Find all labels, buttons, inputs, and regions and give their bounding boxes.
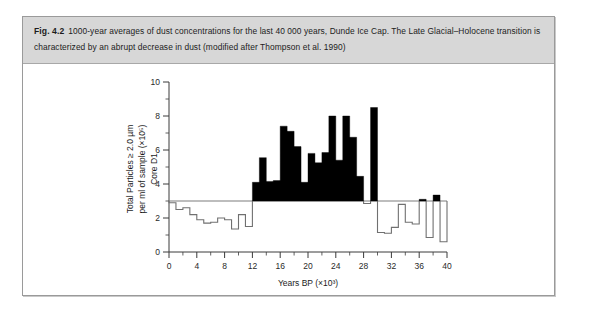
dust-concentration-chart: 0246810 0481216202428323640 Total Partic… <box>23 64 556 296</box>
x-tick-label: 32 <box>387 261 397 271</box>
y-tick-label: 8 <box>155 111 160 121</box>
open-step-outline <box>169 201 447 242</box>
x-tick-label: 40 <box>442 261 452 271</box>
x-tick-label: 4 <box>194 261 199 271</box>
figure-caption: Fig. 4.21000-year averages of dust conce… <box>34 24 544 55</box>
y-axis-title-line-1: Total Particles ≥ 2.0 µm <box>125 125 135 213</box>
x-tick-label: 8 <box>222 261 227 271</box>
chart-plot-area: 0246810 0481216202428323640 Total Partic… <box>23 64 554 296</box>
figure-container: Fig. 4.21000-year averages of dust conce… <box>22 16 555 296</box>
y-axis-title: Total Particles ≥ 2.0 µm per ml of sampl… <box>125 124 159 213</box>
y-tick-label: 2 <box>155 213 160 223</box>
x-tick-label: 0 <box>167 261 172 271</box>
figure-number-label: Fig. 4.2 <box>34 26 64 36</box>
x-tick-label: 36 <box>414 261 424 271</box>
figure-caption-text: 1000-year averages of dust concentration… <box>34 26 540 52</box>
figure-caption-bar: Fig. 4.21000-year averages of dust conce… <box>23 17 554 64</box>
x-tick-label: 20 <box>303 261 313 271</box>
y-axis-ticks <box>163 82 169 252</box>
filled-dust-bars <box>252 108 440 202</box>
x-tick-label: 28 <box>359 261 369 271</box>
y-axis-title-line-3: Core D1 <box>149 153 159 185</box>
y-tick-label: 0 <box>155 247 160 257</box>
y-axis-title-line-2: per ml of sample (×10⁵) <box>137 124 147 213</box>
x-tick-label: 16 <box>275 261 285 271</box>
x-axis-tick-labels: 0481216202428323640 <box>167 261 452 271</box>
y-tick-label: 10 <box>151 77 161 87</box>
x-axis: 0481216202428323640 <box>167 252 452 271</box>
x-axis-title: Years BP (×10³) <box>278 278 338 288</box>
x-tick-label: 24 <box>331 261 341 271</box>
x-tick-label: 12 <box>248 261 258 271</box>
x-axis-ticks <box>169 252 447 258</box>
